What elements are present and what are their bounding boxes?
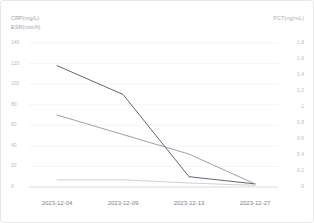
y-tick-label-left: 20 <box>11 163 17 168</box>
x-tick-label: 2023-12-04 <box>42 200 73 206</box>
x-tick-label: 2023-12-27 <box>240 200 271 206</box>
plot-area <box>1 1 314 223</box>
y-tick-label-right: 0.2 <box>297 168 304 173</box>
y-tick-label-right: 0.8 <box>297 120 304 125</box>
y-tick-label-left: 0 <box>11 184 14 189</box>
x-tick-label: 2023-12-13 <box>174 200 205 206</box>
y-tick-label-left: 80 <box>11 102 17 107</box>
y-tick-label-left: 40 <box>11 143 17 148</box>
y-tick-label-right: 1 <box>301 104 304 109</box>
y-tick-label-left: 60 <box>11 122 17 127</box>
y-tick-label-right: 0 <box>301 184 304 189</box>
chart-card: CRP(mg/L) ESR(mm/h) PCT(ng/mL) 020406080… <box>0 0 314 223</box>
y-tick-label-right: 1.4 <box>297 72 304 77</box>
y-tick-label-left: 120 <box>11 61 19 66</box>
gridlines <box>29 43 278 187</box>
y-tick-label-right: 1.6 <box>297 56 304 61</box>
y-tick-label-right: 0.6 <box>297 136 304 141</box>
y-tick-label-left: 100 <box>11 81 19 86</box>
y-tick-label-right: 1.8 <box>297 40 304 45</box>
y-tick-label-right: 0.4 <box>297 152 304 157</box>
x-tick-label: 2023-12-09 <box>108 200 139 206</box>
y-tick-label-right: 1.2 <box>297 88 304 93</box>
y-tick-label-left: 140 <box>11 40 19 45</box>
